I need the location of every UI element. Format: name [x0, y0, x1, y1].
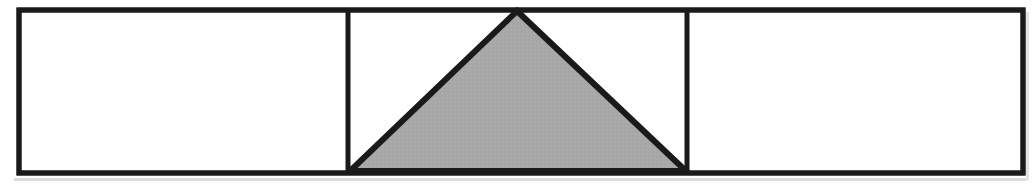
bottom-shadow	[14, 178, 1026, 181]
geometric-figure-svg	[0, 0, 1036, 186]
right-section	[690, 13, 1020, 170]
figure-canvas: Rectangle divided into three sections wi…	[0, 0, 1036, 186]
left-section	[22, 13, 346, 170]
right-shadow	[1026, 12, 1029, 180]
